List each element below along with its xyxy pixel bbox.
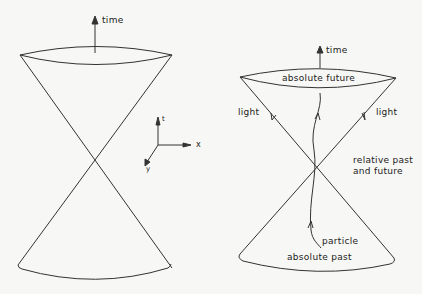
right-time-label: time	[326, 45, 348, 55]
axis-y-label: y	[146, 164, 150, 174]
light-cone-diagrams	[0, 0, 422, 294]
light-right-label: light	[376, 107, 397, 117]
right-time-arrow-icon	[317, 46, 323, 68]
axes-icon	[145, 117, 191, 166]
light-left-label: light	[238, 107, 259, 117]
absolute-past-label: absolute past	[287, 252, 352, 262]
left-time-arrow-icon	[92, 16, 98, 53]
absolute-future-label: absolute future	[282, 73, 355, 83]
and-future-label: and future	[353, 166, 403, 176]
particle-label: particle	[322, 236, 358, 246]
axis-t-label: t	[162, 114, 165, 124]
relative-past-label: relative past	[353, 155, 413, 165]
axis-x-label: x	[196, 140, 201, 150]
left-time-label: time	[102, 15, 124, 25]
